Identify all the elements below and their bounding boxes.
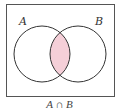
set-a-label: A: [18, 15, 27, 28]
set-b-label: B: [94, 15, 103, 28]
venn-diagram: A B: [0, 0, 119, 112]
diagram-caption: A ∩ B: [0, 98, 119, 110]
